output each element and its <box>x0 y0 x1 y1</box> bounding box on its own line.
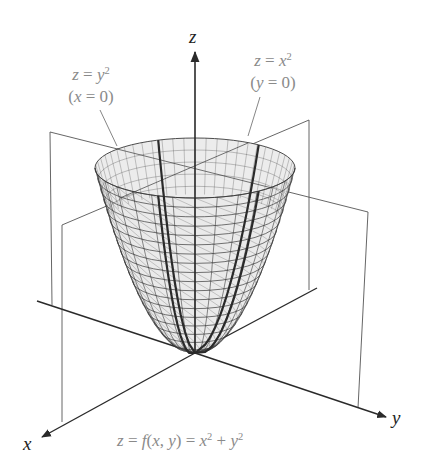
leader-left <box>100 110 117 146</box>
annotation-z-equals-y-squared: z = y2 (x = 0) <box>58 66 124 105</box>
var-x: x <box>279 51 287 70</box>
cap-eq2: = <box>181 431 199 450</box>
cap-y2: y <box>230 431 238 450</box>
annotation-left-line1: z = y2 <box>58 66 124 83</box>
z-axis-label: z <box>189 27 196 46</box>
equals: = <box>79 65 97 84</box>
annotation-right-line2: (y = 0) <box>240 74 306 91</box>
eq-zero: = 0) <box>263 73 295 92</box>
x-axis <box>42 353 195 437</box>
cap-z: z <box>117 431 124 450</box>
plane-x0-left <box>50 132 52 305</box>
equals: = <box>261 51 279 70</box>
axes-front <box>42 353 386 437</box>
function-caption: z = f(x, y) = x2 + y2 <box>117 432 243 449</box>
y-axis-label: y <box>392 408 400 427</box>
cap-x2: x <box>199 431 207 450</box>
cap-comma: , <box>160 431 169 450</box>
cap-y: y <box>168 431 176 450</box>
cap-exp2: 2 <box>238 431 243 442</box>
cap-x: x <box>152 431 160 450</box>
annotation-right-line1: z = x2 <box>240 52 306 69</box>
annotation-z-equals-x-squared: z = x2 (y = 0) <box>240 52 306 91</box>
var-z: z <box>72 65 79 84</box>
var-y: y <box>97 65 105 84</box>
exponent: 2 <box>105 65 110 76</box>
cap-eq1: = <box>124 431 142 450</box>
x-axis-label: x <box>23 434 31 453</box>
cap-plus: + <box>212 431 230 450</box>
eq-zero: = 0) <box>81 87 113 106</box>
y-axis <box>195 353 386 417</box>
var-z: z <box>254 51 261 70</box>
exponent: 2 <box>287 51 292 62</box>
leader-right <box>248 97 260 136</box>
annotation-left-line2: (x = 0) <box>58 88 124 105</box>
